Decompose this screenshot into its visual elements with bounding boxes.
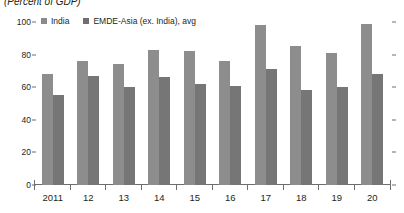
bar-group: 12 [71, 22, 107, 185]
bar-group: 13 [106, 22, 142, 185]
bar-group: 14 [142, 22, 178, 185]
bar-india [255, 25, 266, 185]
bar-emde-asia [266, 69, 277, 185]
x-axis-tick-label: 18 [296, 192, 307, 203]
bar-group: 19 [319, 22, 355, 185]
y-axis-tick-label: 40 [22, 115, 31, 124]
x-axis-tick-label: 14 [154, 192, 165, 203]
bar-india [77, 61, 88, 185]
x-axis-tick-mark [141, 185, 142, 190]
x-axis-tick-label: 20 [367, 192, 378, 203]
bar-emde-asia [337, 87, 348, 185]
y-axis-tick-label: 20 [22, 148, 31, 157]
x-axis-tick-label: 13 [118, 192, 129, 203]
x-axis-tick-label: 17 [260, 192, 271, 203]
bar-emde-asia [372, 74, 383, 185]
x-axis-tick-mark [247, 185, 248, 190]
bar-group: 16 [213, 22, 249, 185]
y-axis-tick-mark-right [392, 152, 396, 153]
bar-group: 17 [248, 22, 284, 185]
bar-india [113, 64, 124, 185]
x-axis-tick-label: 12 [83, 192, 94, 203]
bar-emde-asia [301, 90, 312, 185]
chart-subtitle: (Percent of GDP) [4, 0, 81, 8]
bar-india [326, 53, 337, 185]
x-axis-tick-mark [105, 185, 106, 190]
bar-group: 20 [355, 22, 391, 185]
bar-emde-asia [159, 77, 170, 185]
bar-groups: 2011121314151617181920 [35, 22, 390, 185]
y-axis-tick-mark [32, 54, 36, 55]
plot-area: 2011121314151617181920 020406080100 [35, 22, 390, 185]
bar-group: 2011 [35, 22, 71, 185]
bar-chart: (Percent of GDP) India EMDE-Asia (ex. In… [0, 0, 404, 213]
x-axis-tick-mark [283, 185, 284, 190]
y-axis-tick-label: 100 [17, 18, 31, 27]
x-axis-tick-mark [34, 185, 35, 190]
y-axis-tick-mark [32, 22, 36, 23]
y-axis-tick-label: 0 [26, 181, 31, 190]
x-axis-tick-mark [212, 185, 213, 190]
bar-india [42, 74, 53, 185]
bar-india [148, 50, 159, 185]
bar-emde-asia [195, 84, 206, 185]
x-axis-tick-mark [318, 185, 319, 190]
bar-india [184, 51, 195, 185]
x-axis-end-tick-mark [390, 185, 391, 190]
x-axis-tick-label: 15 [189, 192, 200, 203]
bar-emde-asia [124, 87, 135, 185]
y-axis-tick-mark [32, 152, 36, 153]
y-axis-tick-label: 80 [22, 50, 31, 59]
y-axis-tick-mark [32, 119, 36, 120]
y-axis-tick-mark [32, 87, 36, 88]
bar-emde-asia [88, 76, 99, 185]
bar-emde-asia [230, 86, 241, 185]
bar-group: 15 [177, 22, 213, 185]
x-axis-tick-label: 19 [331, 192, 342, 203]
x-axis-tick-mark [70, 185, 71, 190]
y-axis-tick-mark-right [392, 22, 396, 23]
y-axis-tick-mark-right [392, 54, 396, 55]
y-axis-tick-mark-right [392, 185, 396, 186]
x-axis-tick-mark [176, 185, 177, 190]
bar-india [219, 61, 230, 185]
y-axis-tick-mark-right [392, 119, 396, 120]
bar-group: 18 [284, 22, 320, 185]
y-axis-tick-label: 60 [22, 83, 31, 92]
y-axis-tick-mark [32, 185, 36, 186]
y-axis-tick-mark-right [392, 87, 396, 88]
x-axis-tick-label: 2011 [43, 192, 63, 203]
bar-india [290, 46, 301, 185]
x-axis-tick-mark [354, 185, 355, 190]
x-axis-tick-label: 16 [225, 192, 236, 203]
bar-emde-asia [53, 95, 64, 185]
bar-india [361, 24, 372, 185]
